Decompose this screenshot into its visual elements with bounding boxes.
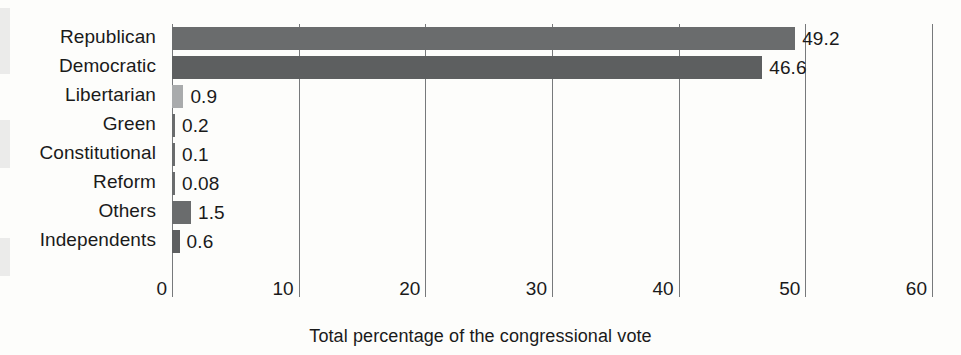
bar-value-label: 0.1 — [182, 141, 209, 168]
plot-area: 49.246.60.90.20.10.081.50.6 — [172, 24, 932, 274]
x-axis-title: Total percentage of the congressional vo… — [0, 326, 961, 347]
bar — [172, 56, 762, 79]
category-label: Libertarian — [65, 84, 156, 106]
bar-value-label: 0.6 — [187, 228, 214, 255]
x-tick-label: 50 — [779, 278, 805, 300]
bar-row: 1.5 — [172, 198, 932, 227]
bar-value-label: 0.9 — [190, 83, 217, 110]
category-label: Republican — [60, 26, 156, 48]
category-label: Green — [103, 113, 156, 135]
category-axis: RepublicanDemocraticLibertarianGreenCons… — [0, 24, 164, 274]
axis-tick — [805, 274, 806, 297]
x-tick-label: 40 — [653, 278, 679, 300]
bar-chart: RepublicanDemocraticLibertarianGreenCons… — [0, 0, 961, 355]
bar-value-label: 1.5 — [198, 199, 225, 226]
category-label: Constitutional — [39, 142, 156, 164]
category-label: Democratic — [59, 55, 156, 77]
category-label: Others — [98, 200, 156, 222]
x-tick-label: 30 — [526, 278, 552, 300]
axis-tick — [552, 274, 553, 297]
x-tick-label: 20 — [399, 278, 425, 300]
bar-value-label: 49.2 — [802, 25, 839, 52]
bar-row: 0.2 — [172, 111, 932, 140]
bar-value-label: 0.2 — [182, 112, 209, 139]
bar-row: 49.2 — [172, 24, 932, 53]
bar-row: 0.1 — [172, 140, 932, 169]
x-tick-label: 10 — [273, 278, 299, 300]
bar — [172, 201, 191, 224]
bar — [172, 143, 175, 166]
bar — [172, 230, 180, 253]
bar — [172, 27, 795, 50]
axis-tick — [425, 274, 426, 297]
category-label: Independents — [40, 229, 156, 251]
bar-row: 0.08 — [172, 169, 932, 198]
category-label: Reform — [93, 171, 156, 193]
bar-row: 0.9 — [172, 82, 932, 111]
x-tick-label: 0 — [156, 278, 172, 300]
bar — [172, 172, 175, 195]
gridline — [932, 24, 933, 274]
axis-tick — [679, 274, 680, 297]
bar-value-label: 0.08 — [182, 170, 219, 197]
axis-tick — [299, 274, 300, 297]
bar-row: 46.6 — [172, 53, 932, 82]
bar-row: 0.6 — [172, 227, 932, 256]
axis-tick — [172, 274, 173, 297]
axis-tick — [932, 274, 933, 297]
bar-value-label: 46.6 — [769, 54, 806, 81]
bar — [172, 114, 175, 137]
x-tick-label: 60 — [906, 278, 932, 300]
bar — [172, 85, 183, 108]
